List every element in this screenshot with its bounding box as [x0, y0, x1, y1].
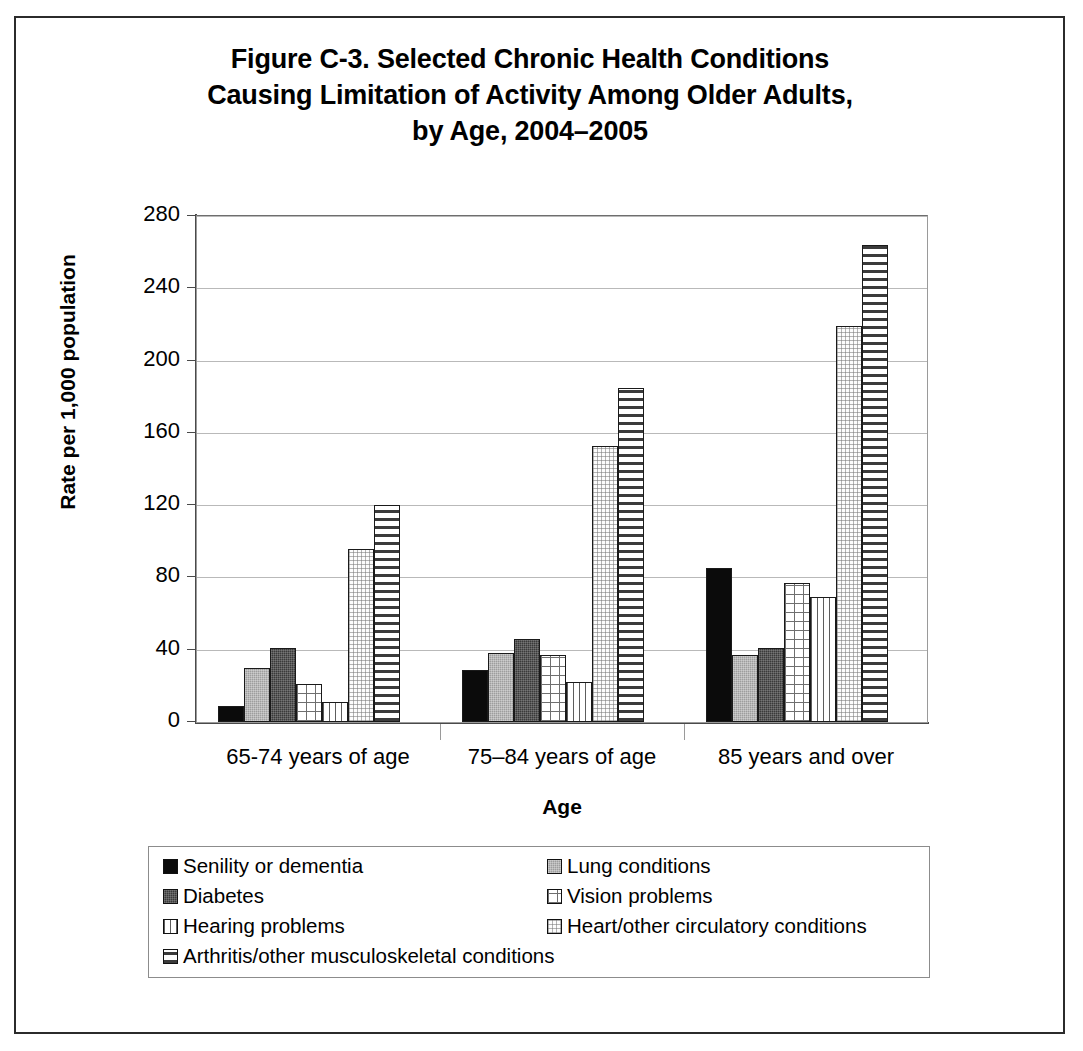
legend-label: Vision problems: [567, 886, 712, 907]
figure-page: Figure C-3. Selected Chronic Health Cond…: [0, 0, 1083, 1051]
x-category-label: 85 years and over: [656, 744, 956, 770]
legend-item[interactable]: Diabetes: [163, 886, 264, 907]
bar: [296, 684, 322, 722]
y-tick-label-120: 120: [100, 490, 180, 516]
y-tick-label-240: 240: [100, 273, 180, 299]
legend-label: Diabetes: [183, 886, 264, 907]
x-axis-separator: [440, 724, 441, 740]
bar: [836, 326, 862, 722]
legend-swatch-icon: [163, 919, 178, 934]
legend-item[interactable]: Arthritis/other musculoskeletal conditio…: [163, 946, 554, 967]
legend-row: Arthritis/other musculoskeletal conditio…: [149, 946, 929, 976]
y-tick-label-160: 160: [100, 418, 180, 444]
legend-label: Hearing problems: [183, 916, 345, 937]
bar: [374, 505, 400, 722]
x-axis-title: Age: [196, 795, 928, 819]
bar: [488, 653, 514, 722]
legend: Senility or dementiaLung conditionsDiabe…: [148, 846, 930, 978]
bar: [862, 245, 888, 722]
legend-item[interactable]: Vision problems: [547, 886, 712, 907]
legend-item[interactable]: Senility or dementia: [163, 856, 363, 877]
y-tick-label-280: 280: [100, 201, 180, 227]
bar: [758, 648, 784, 722]
legend-swatch-icon: [547, 859, 562, 874]
legend-item[interactable]: Heart/other circulatory conditions: [547, 916, 867, 937]
legend-item[interactable]: Hearing problems: [163, 916, 345, 937]
legend-swatch-icon: [163, 889, 178, 904]
y-tick-label-200: 200: [100, 346, 180, 372]
bar: [566, 682, 592, 722]
legend-label: Senility or dementia: [183, 856, 363, 877]
bar-group: [685, 216, 929, 722]
bar: [540, 655, 566, 722]
legend-label: Lung conditions: [567, 856, 711, 877]
legend-label: Arthritis/other musculoskeletal conditio…: [183, 946, 554, 967]
y-tick-label-0: 0: [100, 707, 180, 733]
plot-region: [196, 215, 928, 723]
legend-swatch-icon: [547, 889, 562, 904]
bar: [784, 583, 810, 722]
bar: [706, 568, 732, 722]
bar-group: [197, 216, 441, 722]
x-axis-separator: [684, 724, 685, 740]
bar: [462, 670, 488, 722]
legend-item[interactable]: Lung conditions: [547, 856, 711, 877]
y-tick-label-40: 40: [100, 635, 180, 661]
bar: [218, 706, 244, 722]
bar: [592, 446, 618, 723]
bar: [514, 639, 540, 722]
legend-row: Senility or dementiaLung conditions: [149, 856, 929, 886]
bar: [810, 597, 836, 722]
bar: [270, 648, 296, 722]
bar: [244, 668, 270, 722]
bar: [322, 702, 348, 722]
y-tick-label-80: 80: [100, 562, 180, 588]
bar: [618, 388, 644, 722]
y-axis-title: Rate per 1,000 population: [56, 252, 80, 512]
legend-row: DiabetesVision problems: [149, 886, 929, 916]
bar: [348, 549, 374, 723]
legend-swatch-icon: [163, 859, 178, 874]
legend-row: Hearing problemsHeart/other circulatory …: [149, 916, 929, 946]
bar: [732, 655, 758, 722]
legend-swatch-icon: [163, 949, 178, 964]
legend-swatch-icon: [547, 919, 562, 934]
bar-group: [441, 216, 685, 722]
legend-label: Heart/other circulatory conditions: [567, 916, 867, 937]
